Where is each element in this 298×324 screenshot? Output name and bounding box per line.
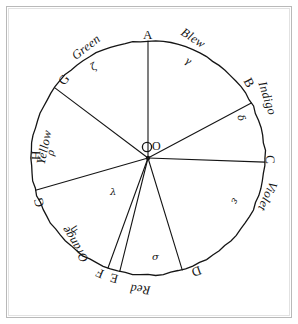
centre-hub <box>146 156 150 160</box>
colour-circle-diagram <box>0 0 298 324</box>
radius-O-G <box>36 158 148 190</box>
figure-frame: ABCDEFGHGBlewIndigoVioletRedOrangeYellow… <box>0 0 298 324</box>
radius-O-I <box>55 88 148 158</box>
radius-O-E <box>120 158 148 272</box>
centre-o-glyph <box>142 142 151 151</box>
radius-O-B <box>148 103 251 158</box>
radius-O-F <box>108 158 148 268</box>
radius-O-C <box>148 158 265 162</box>
radius-O-D <box>148 158 182 270</box>
